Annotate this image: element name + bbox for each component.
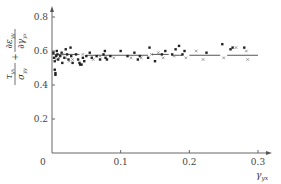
data-point-filled xyxy=(104,50,106,52)
data-point-filled xyxy=(133,52,135,54)
data-point-filled xyxy=(70,55,72,57)
y-axis-arrow-icon xyxy=(50,6,54,12)
y-axis-label: τyx σyy + ∂εyy ∂γyx xyxy=(4,29,28,85)
y-tick-label: 0.8 xyxy=(34,12,49,22)
data-point-open xyxy=(195,50,198,53)
data-point-filled xyxy=(80,63,82,65)
data-point-filled xyxy=(66,53,68,55)
data-point-open xyxy=(245,50,248,53)
data-point-filled xyxy=(54,72,56,74)
data-point-open xyxy=(71,58,74,61)
data-point-filled xyxy=(77,58,79,60)
x-tick-label: 0.3 xyxy=(251,157,266,167)
data-point-filled xyxy=(147,57,149,59)
data-point-filled xyxy=(75,53,77,55)
data-point-filled xyxy=(56,50,58,52)
x-axis-label: γyx xyxy=(256,170,269,182)
data-point-filled xyxy=(205,52,207,54)
data-point-open xyxy=(235,46,238,49)
data-point-open xyxy=(92,58,95,61)
data-point-open xyxy=(157,51,160,54)
data-point-filled xyxy=(52,52,54,54)
data-point-filled xyxy=(61,62,63,64)
data-point-filled xyxy=(178,45,180,47)
y-tick-label: 0.4 xyxy=(34,80,49,90)
data-point-filled xyxy=(243,46,245,48)
data-point-open xyxy=(113,57,116,60)
data-point-filled xyxy=(126,55,128,57)
data-point-filled xyxy=(54,69,56,71)
data-point-filled xyxy=(69,46,71,48)
y-tick-label: 0.6 xyxy=(34,46,49,56)
y-label-den1: σyy xyxy=(16,68,28,80)
data-point-filled xyxy=(99,58,101,60)
data-point-open xyxy=(202,58,205,61)
data-point-filled xyxy=(95,55,97,57)
data-point-filled xyxy=(164,50,166,52)
x-axis-name: γyx xyxy=(256,170,269,182)
data-point-filled xyxy=(102,53,104,55)
data-point-filled xyxy=(161,53,163,55)
y-label-den2: ∂γyx xyxy=(16,33,28,49)
data-point-filled xyxy=(174,48,176,50)
axes xyxy=(50,6,272,155)
data-point-filled xyxy=(109,55,111,57)
data-point-filled xyxy=(229,48,231,50)
y-label-num1: τyx xyxy=(4,69,16,80)
data-point-filled xyxy=(137,58,139,60)
data-point-open xyxy=(246,58,249,61)
data-point-filled xyxy=(65,48,67,50)
data-point-filled xyxy=(71,62,73,64)
data-point-filled xyxy=(119,50,121,52)
data-point-filled xyxy=(82,57,84,59)
data-point-open xyxy=(82,53,85,56)
data-point-open xyxy=(130,57,133,60)
data-point-filled xyxy=(106,58,108,60)
y-tick-label: 0.2 xyxy=(34,114,48,124)
x-tick-label: 0.2 xyxy=(182,157,196,167)
data-point-filled xyxy=(231,46,233,48)
data-point-open xyxy=(222,57,225,60)
data-point-filled xyxy=(83,60,85,62)
data-point-filled xyxy=(154,60,156,62)
x-tick-label: 0.1 xyxy=(114,157,128,167)
data-point-filled xyxy=(85,55,87,57)
scatter-chart: 0.20.40.60.8 0.10.20.3 0 γyx τyx σyy + ∂… xyxy=(0,0,281,184)
data-point-open xyxy=(162,57,165,60)
data-point-filled xyxy=(148,46,150,48)
data-point-filled xyxy=(56,53,58,55)
data-point-open xyxy=(185,57,188,60)
y-label-plus: + xyxy=(10,53,20,61)
y-label-num2: ∂εyy xyxy=(4,33,16,48)
x-axis-arrow-icon xyxy=(266,151,272,155)
data-point-open xyxy=(140,57,143,60)
data-point-filled xyxy=(181,53,183,55)
origin-label: 0 xyxy=(40,157,46,167)
data-point-filled xyxy=(221,43,223,45)
data-point-filled xyxy=(89,52,91,54)
data-points xyxy=(52,43,249,76)
data-point-filled xyxy=(183,50,185,52)
